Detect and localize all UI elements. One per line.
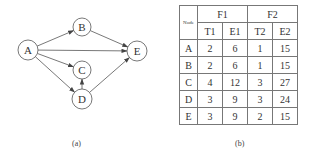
node-c: C — [73, 61, 91, 79]
subheader-t1: T1 — [198, 23, 223, 40]
cell-t1: 3 — [198, 91, 223, 108]
table-row: E 3 9 2 15 — [180, 108, 298, 125]
table-row: D 3 9 3 24 — [180, 91, 298, 108]
cell-e1: 9 — [223, 91, 248, 108]
cell-e1: 9 — [223, 108, 248, 125]
node-e: E — [127, 41, 147, 61]
cell-e2: 15 — [273, 40, 298, 57]
table-row: B 2 6 1 15 — [180, 57, 298, 74]
cell-t2: 1 — [248, 57, 273, 74]
cell-t1: 3 — [198, 108, 223, 125]
row-node: B — [180, 57, 198, 74]
cell-t1: 2 — [198, 40, 223, 57]
cell-t2: 1 — [248, 40, 273, 57]
cell-e2: 15 — [273, 57, 298, 74]
svg-text:A: A — [24, 44, 32, 56]
edge-a-to-d — [35, 57, 74, 93]
cell-t2: 3 — [248, 91, 273, 108]
edge-b-to-e — [90, 31, 128, 47]
node-a: A — [18, 40, 38, 60]
caption-a: (a) — [72, 139, 81, 148]
cell-t1: 4 — [198, 74, 223, 91]
cell-t1: 2 — [198, 57, 223, 74]
row-node: C — [180, 74, 198, 91]
table-row: C 4 12 3 27 — [180, 74, 298, 91]
node-d: D — [72, 89, 92, 109]
edge-a-to-c — [37, 53, 73, 66]
svg-text:C: C — [78, 64, 85, 76]
svg-text:B: B — [78, 21, 85, 33]
caption-b: (b) — [235, 139, 244, 148]
row-node: A — [180, 40, 198, 57]
dag-diagram: ABCDE — [0, 0, 170, 130]
graph-nodes: ABCDE — [18, 18, 147, 109]
group-header-f1: F1 — [198, 6, 248, 23]
edge-d-to-e — [90, 58, 130, 93]
cell-e2: 24 — [273, 91, 298, 108]
subheader-t2: T2 — [248, 23, 273, 40]
cell-e2: 27 — [273, 74, 298, 91]
cell-t2: 3 — [248, 74, 273, 91]
node-parameter-table: Node F1 F2 T1 E1 T2 E2 A 2 6 1 15 B 2 — [179, 5, 298, 125]
cell-e1: 12 — [223, 74, 248, 91]
subheader-e1: E1 — [223, 23, 248, 40]
cell-t2: 2 — [248, 108, 273, 125]
svg-text:D: D — [78, 93, 86, 105]
table-row: A 2 6 1 15 — [180, 40, 298, 57]
group-header-f2: F2 — [248, 6, 298, 23]
cell-e2: 15 — [273, 108, 298, 125]
cell-e1: 6 — [223, 40, 248, 57]
cell-e1: 6 — [223, 57, 248, 74]
edge-a-to-b — [37, 31, 74, 47]
node-b: B — [73, 18, 91, 36]
node-header: Node — [180, 6, 198, 40]
subheader-e2: E2 — [273, 23, 298, 40]
row-node: D — [180, 91, 198, 108]
svg-text:E: E — [134, 45, 141, 57]
row-node: E — [180, 108, 198, 125]
edge-a-to-e — [38, 50, 127, 51]
